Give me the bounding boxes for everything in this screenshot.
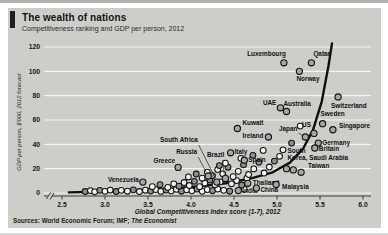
economist-tab-mark (10, 11, 15, 28)
sources-line: Sources: World Economic Forum; IMF; The … (13, 217, 176, 224)
chart-title: The wealth of nations (22, 12, 126, 23)
chart-subtitle: Competitiveness ranking and GDP per pers… (22, 25, 184, 32)
sources-italic: The Economist (131, 217, 176, 224)
bottom-edge-strip (0, 233, 388, 235)
chart-panel (8, 8, 381, 228)
sources-prefix: Sources: World Economic Forum; IMF; (13, 217, 131, 224)
top-edge-strip (0, 0, 388, 3)
economist-chart-card: The wealth of nations Competitiveness ra… (0, 0, 388, 235)
